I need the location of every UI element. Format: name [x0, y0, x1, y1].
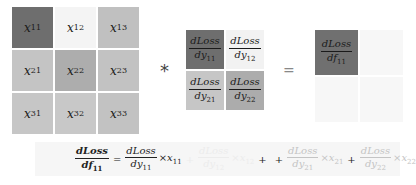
fraction: dLossdy11 — [125, 146, 156, 173]
denominator-var: dy — [292, 158, 304, 169]
cell-subscript: 33 — [117, 109, 127, 118]
input-cell: x21 — [12, 50, 53, 91]
cell-var: x — [110, 107, 117, 121]
cell-var: x — [110, 64, 117, 78]
denominator-var: dy — [195, 49, 207, 60]
fraction-denominator: dy12 — [203, 158, 224, 172]
formula-lhs: dLossdf11 — [75, 146, 109, 172]
cell-var: x — [24, 64, 31, 78]
cell-subscript: 12 — [74, 23, 84, 32]
input-matrix: x11x12x13x21x22x23x31x32x33 — [12, 7, 139, 134]
input-cell: x12 — [55, 7, 96, 48]
x-subscript: 12 — [245, 158, 254, 166]
input-cell: x22 — [55, 50, 96, 91]
plus-sign: + — [347, 154, 355, 165]
kernel-cell: dLossdy12 — [226, 30, 264, 69]
fraction-denominator: dy21 — [195, 90, 216, 104]
term-multiplier: ×x11 — [159, 152, 182, 166]
denominator-var: dy — [195, 90, 207, 101]
plus-sign: + — [258, 154, 266, 165]
output-cell — [360, 77, 403, 122]
convolution-operator: * — [160, 60, 169, 81]
fraction-numerator: dLoss — [75, 146, 109, 159]
denominator-subscript: 21 — [207, 96, 216, 104]
fraction-denominator: df11 — [81, 159, 102, 172]
fraction: dLossdy12 — [229, 36, 260, 63]
kernel-cell: dLossdy21 — [186, 71, 224, 110]
plus-sign: + — [275, 154, 283, 165]
fraction: dLossdy12 — [198, 146, 229, 173]
times-sign: × — [159, 152, 167, 163]
times-sign: × — [231, 152, 239, 163]
cell-var: x — [24, 107, 31, 121]
denominator-var: dy — [235, 49, 247, 60]
fraction-denominator: dy11 — [195, 49, 216, 63]
fraction: dLossdy11 — [189, 36, 220, 63]
fraction: dLossdf11 — [75, 146, 109, 172]
term-multiplier: ×x22 — [393, 152, 416, 166]
x-subscript: 11 — [173, 158, 182, 166]
term-multiplier: ×x12 — [231, 152, 254, 166]
fraction-denominator: dy22 — [365, 158, 386, 172]
cell-var: x — [67, 107, 74, 121]
input-cell: x33 — [98, 93, 139, 134]
fraction-numerator: dLoss — [229, 77, 260, 90]
fraction-numerator: dLoss — [287, 146, 318, 159]
fraction-numerator: dLoss — [229, 36, 260, 49]
fraction-numerator: dLoss — [125, 146, 156, 159]
fraction-denominator: df11 — [327, 52, 346, 66]
kernel-cell: dLossdy22 — [226, 71, 264, 110]
fraction-numerator: dLoss — [198, 146, 229, 159]
fraction-denominator: dy11 — [131, 158, 152, 172]
formula-term: dLossdy21×x21 — [287, 146, 343, 173]
fraction: dLossdy21 — [287, 146, 318, 173]
gradient-kernel-matrix: dLossdy11dLossdy12dLossdy21dLossdy22 — [186, 30, 264, 110]
x-subscript: 22 — [407, 158, 416, 166]
input-cell: x23 — [98, 50, 139, 91]
cell-var: x — [67, 64, 74, 78]
cell-subscript: 11 — [31, 23, 41, 32]
formula-term: dLossdy12×x12 — [198, 146, 254, 173]
times-sign: × — [320, 152, 328, 163]
formula-term: dLossdy11×x11 — [125, 146, 181, 173]
denominator-subscript: 22 — [247, 96, 256, 104]
cell-subscript: 21 — [31, 66, 41, 75]
input-cell: x11 — [12, 7, 53, 48]
output-cell — [315, 77, 358, 122]
cell-var: x — [24, 21, 31, 35]
plus-sign: + — [186, 154, 194, 165]
denominator-subscript: 12 — [247, 55, 256, 63]
cell-var: x — [67, 21, 74, 35]
denominator-var: dy — [203, 158, 215, 169]
formula-equals: = — [113, 154, 121, 165]
fraction-numerator: dLoss — [321, 39, 352, 52]
denominator-subscript: 11 — [337, 58, 346, 66]
denominator-var: df — [327, 52, 337, 63]
fraction-numerator: dLoss — [360, 146, 391, 159]
cell-subscript: 23 — [117, 66, 127, 75]
denominator-subscript: 12 — [215, 164, 224, 172]
term-multiplier: ×x21 — [320, 152, 343, 166]
cell-subscript: 22 — [74, 66, 84, 75]
fraction-denominator: dy12 — [235, 49, 256, 63]
equals-operator: = — [283, 62, 295, 78]
input-cell: x32 — [55, 93, 96, 134]
denominator-var: df — [81, 159, 92, 170]
fraction: dLossdf11 — [321, 39, 352, 66]
denominator-subscript: 11 — [143, 164, 152, 172]
denominator-subscript: 22 — [377, 164, 386, 172]
output-cell: dLossdf11 — [315, 30, 358, 75]
denominator-var: dy — [235, 90, 247, 101]
output-cell — [360, 30, 403, 75]
x-subscript: 21 — [334, 158, 343, 166]
formula-band: dLossdf11=dLossdy11×x11+dLossdy12×x12++d… — [35, 142, 400, 176]
fraction-denominator: dy21 — [292, 158, 313, 172]
cell-subscript: 13 — [117, 23, 127, 32]
fraction: dLossdy22 — [229, 77, 260, 104]
fraction-numerator: dLoss — [189, 36, 220, 49]
fraction-denominator: dy22 — [235, 90, 256, 104]
denominator-var: dy — [365, 158, 377, 169]
cell-subscript: 31 — [31, 109, 41, 118]
fraction-numerator: dLoss — [189, 77, 220, 90]
formula-term: dLossdy22×x22 — [360, 146, 416, 173]
